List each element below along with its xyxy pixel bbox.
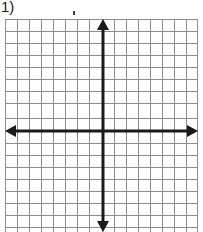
grid-lines: [5, 19, 198, 232]
coordinate-graph[interactable]: [5, 19, 198, 232]
worksheet-problem: 1): [0, 0, 203, 232]
problem-number-label: 1): [1, 0, 14, 16]
top-tick-mark-icon: [73, 11, 75, 15]
